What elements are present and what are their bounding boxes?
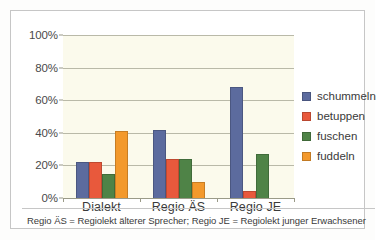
legend-label: schummeln [317,90,376,102]
bar [166,159,179,198]
y-axis-tick-label: 40% [35,127,58,139]
bar [179,159,192,198]
legend-item: betuppen [302,107,380,125]
y-axis-tick-label: 20% [35,159,58,171]
y-axis-tick-label: 80% [35,62,58,74]
legend: schummelnbetuppenfuschenfuddeln [302,87,380,167]
footnote: Regio ÄS = Regiolekt älterer Sprecher; R… [27,215,372,226]
bar [230,87,243,198]
bar [102,174,115,198]
legend-swatch-icon [302,152,311,161]
bar-group [63,35,140,198]
bar-group [140,35,217,198]
bar [192,182,205,198]
legend-swatch-icon [302,132,311,141]
bar-groups [63,35,294,198]
legend-item: schummeln [302,87,380,105]
y-axis-tick-label: 0% [42,192,58,204]
bar [89,162,102,198]
bar [115,131,128,198]
bar [76,162,89,198]
y-axis-tick-label: 60% [35,94,58,106]
x-axis-label: Dialekt [63,200,140,214]
legend-swatch-icon [302,112,311,121]
x-axis-labels: DialektRegio ÄSRegio JE [63,200,294,214]
legend-item: fuschen [302,127,380,145]
x-axis-label: Regio ÄS [140,200,217,214]
legend-label: betuppen [317,110,365,122]
bar [256,154,269,198]
legend-swatch-icon [302,92,311,101]
footnote-divider [22,208,375,209]
x-axis-label: Regio JE [217,200,294,214]
y-axis-tick-label: 100% [29,29,58,41]
bar-group [217,35,294,198]
legend-label: fuddeln [317,150,355,162]
x-axis-tick-mark [294,198,295,202]
bar [153,130,166,198]
legend-item: fuddeln [302,147,380,165]
chart-frame: 0%20%40%60%80%100% DialektRegio ÄSRegio … [10,10,365,229]
legend-label: fuschen [317,130,357,142]
